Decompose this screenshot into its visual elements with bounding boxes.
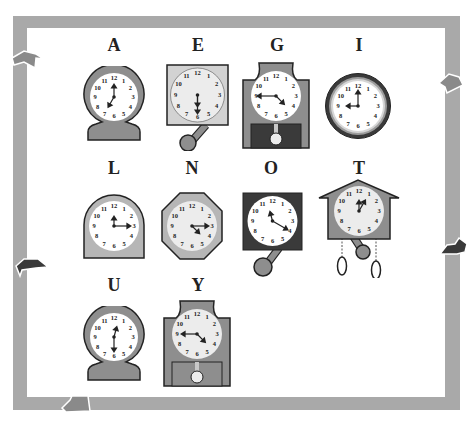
dial-number: 10 [176,320,183,327]
label-l: L [99,158,129,179]
dial-number: 2 [374,92,377,99]
dial-number: 11 [345,85,351,92]
clock-a[interactable]: 121234567891011 [82,66,146,142]
dial-number: 10 [337,92,344,99]
label-g: G [262,35,292,56]
dial-number: 1 [122,317,125,324]
clock-l[interactable]: 121234567891011 [82,193,146,260]
dial-number: 10 [94,84,101,91]
dial-number: 2 [213,320,216,327]
dial-number: 12 [194,310,201,317]
dial-number: 11 [263,75,269,82]
dial-number: 12 [269,197,276,204]
dial-number: 11 [101,77,107,84]
dial-number: 2 [208,212,211,219]
dial-number: 12 [356,187,363,194]
frame-arrow-top-left-icon [10,48,46,74]
dial-number: 10 [252,207,259,214]
dial-number: 12 [194,69,201,76]
clock-u[interactable]: 121234567891011 [82,306,146,382]
dial-number: 10 [94,324,101,331]
label-o: O [256,158,286,179]
dial-number: 12 [273,72,280,79]
dial-number: 1 [284,75,287,82]
frame-left [13,16,27,410]
dial-number: 10 [255,82,262,89]
dial-number: 2 [288,207,291,214]
dial-number: 1 [366,85,369,92]
dial-number: 2 [215,80,218,87]
dial-number: 2 [129,324,132,331]
dial-number: 12 [111,202,118,209]
frame-arrow-left-lower-icon [12,256,50,278]
dial-number: 1 [122,205,125,212]
dial-number: 10 [93,212,100,219]
dial-number: 11 [101,205,107,212]
frame-arrow-right-lower-icon [437,234,469,260]
dial-number: 11 [346,190,352,197]
label-a: A [99,35,129,56]
dial-number: 11 [183,72,189,79]
dial-number: 11 [101,317,107,324]
frame-arrow-bottom-icon [58,392,94,416]
dial-number: 2 [129,84,132,91]
clock-y[interactable]: 121234567891011 [162,299,232,388]
clock-t[interactable]: 121234567891011 [318,178,400,278]
dial-number: 11 [184,313,190,320]
label-y: Y [183,275,213,296]
label-t: T [344,158,374,179]
dial-number: 11 [259,200,265,207]
clock-g[interactable]: 121234567891011 [241,61,311,150]
dial-number: 12 [355,82,362,89]
dial-number: 1 [122,77,125,84]
dial-number: 12 [189,202,196,209]
dial-number: 10 [175,80,182,87]
frame-top [13,16,460,28]
dial-number: 2 [375,197,378,204]
label-u: U [99,275,129,296]
dial-number: 1 [281,200,284,207]
dial-number: 11 [179,205,185,212]
dial-number: 12 [111,74,118,81]
label-n: N [177,158,207,179]
dial-number: 1 [200,205,203,212]
clock-e[interactable]: 121234567891011 [164,63,232,151]
clock-n[interactable]: 121234567891011 [161,192,223,260]
label-e: E [183,35,213,56]
dial-number: 1 [367,190,370,197]
frame-arrow-right-upper-icon [437,71,467,99]
dial-number: 2 [130,212,133,219]
dial-number: 10 [171,212,178,219]
dial-number: 1 [205,313,208,320]
label-i: I [344,35,374,56]
dial-number: 12 [111,314,118,321]
dial-number: 1 [207,72,210,79]
clock-i[interactable]: 121234567891011 [324,72,392,140]
clock-o[interactable]: 121234567891011 [241,192,304,280]
dial-number: 10 [338,197,345,204]
dial-number: 2 [292,82,295,89]
